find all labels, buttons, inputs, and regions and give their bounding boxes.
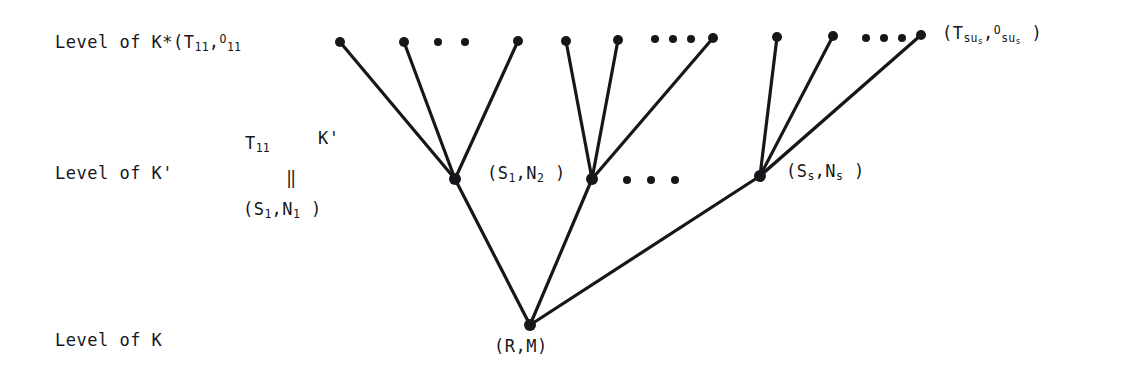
top-ellipsis-3-dot-1 <box>862 34 870 42</box>
kprime-node-s-label: (Ss,Ns ) <box>786 163 865 183</box>
kprime-node-1 <box>449 173 461 185</box>
kstar-leaf-6 <box>708 33 718 43</box>
s1-sub: 1 <box>264 207 271 221</box>
top-ellipsis-3-dot-2 <box>880 34 888 42</box>
root-node-label: (R,M) <box>494 338 548 355</box>
edge-root-to-kprime-s <box>530 176 760 325</box>
kprime-node-1-identity-equals: ‖ <box>286 170 296 187</box>
tree-graph <box>0 0 1147 384</box>
comma: , <box>983 23 994 43</box>
edge-root-to-kprime-1 <box>455 179 530 325</box>
top-ellipsis-1-dot-2 <box>461 38 469 46</box>
kstar-leaf-8 <box>828 31 838 41</box>
kstar-leaf-1 <box>335 37 345 47</box>
comma: ,N <box>272 199 293 219</box>
level-kstar-label-sub2: 11 <box>227 40 241 54</box>
level-kprime-label: Level of K' <box>55 165 173 182</box>
kstar-leaf-2 <box>399 37 409 47</box>
open: (S <box>243 199 264 219</box>
osus-sub: sus <box>1001 31 1021 45</box>
close: ) <box>300 199 321 219</box>
close: ) <box>544 163 565 183</box>
kstar-leaf-5 <box>613 35 623 45</box>
edge-kprime2-to-leaf-6 <box>592 38 713 179</box>
kprime-node-1-label: (S1,N1 ) <box>243 201 322 221</box>
middle-ellipsis <box>623 176 679 184</box>
kprime-node-2 <box>586 173 598 185</box>
middle-ellipsis-dot-3 <box>671 176 679 184</box>
tsus-sub: sus <box>963 31 983 45</box>
t-sub: 11 <box>256 141 270 155</box>
top-ellipsis-2-dot-3 <box>687 35 695 43</box>
paren-open: (T <box>942 23 963 43</box>
root-node <box>524 319 536 331</box>
s1-sub: 1 <box>508 171 515 185</box>
kprime-node-1-identity-top: T11 <box>245 135 270 155</box>
edge-kprime1-to-leaf-2 <box>404 42 455 179</box>
top-ellipsis-2 <box>651 35 695 43</box>
middle-ellipsis-dot-2 <box>647 176 655 184</box>
kprime-text: K' <box>318 128 339 148</box>
edge-kprimes-to-leaf-8 <box>760 36 833 176</box>
level-kstar-label-sub1: 11 <box>195 40 209 54</box>
top-ellipsis-3-dot-3 <box>898 34 906 42</box>
level-kstar-label-comma: , <box>209 32 220 52</box>
kstar-leaf-7 <box>772 32 782 42</box>
kprime-node-s <box>754 170 766 182</box>
edge-kprime2-to-leaf-4 <box>566 41 592 179</box>
kstar-leaf-9 <box>916 30 926 40</box>
comma: ,N <box>516 163 537 183</box>
tree-diagram-figure: Level of K*(T11,O11 Level of K' Level of… <box>0 0 1147 384</box>
open: (S <box>786 161 807 181</box>
top-right-leaf-label: (Tsus,Osus ) <box>942 25 1042 46</box>
close: ) <box>843 161 864 181</box>
edge-root-to-kprime-2 <box>530 179 592 325</box>
edge-kprime1-to-leaf-1 <box>340 42 455 179</box>
level-kstar-label: Level of K*(T11,O11 <box>55 34 241 54</box>
middle-ellipsis-dot-1 <box>623 176 631 184</box>
t-base: T <box>245 133 256 153</box>
ss-sub: s <box>807 169 814 183</box>
top-ellipsis-3 <box>862 34 906 42</box>
edge-kprimes-to-leaf-7 <box>760 37 777 176</box>
comma: ,N <box>815 161 836 181</box>
paren-close: ) <box>1021 23 1042 43</box>
edge-kprime2-to-leaf-5 <box>592 40 618 179</box>
kprime-node-2-label: (S1,N2 ) <box>487 165 566 185</box>
kprime-node-1-identity-kprime: K' <box>318 130 339 147</box>
top-ellipsis-1-dot-1 <box>434 38 442 46</box>
open: (S <box>487 163 508 183</box>
top-ellipsis-1 <box>434 38 469 46</box>
kstar-leaf-4 <box>561 36 571 46</box>
level-kstar-label-text: Level of K*(T <box>55 32 195 52</box>
edge-kprimes-to-leaf-9 <box>760 35 921 176</box>
top-ellipsis-2-dot-1 <box>651 35 659 43</box>
top-ellipsis-2-dot-2 <box>669 35 677 43</box>
level-kstar-label-o: O <box>220 32 227 46</box>
edge-kprime1-to-leaf-3 <box>455 41 518 179</box>
kstar-leaf-3 <box>513 36 523 46</box>
level-k-label: Level of K <box>55 332 162 349</box>
